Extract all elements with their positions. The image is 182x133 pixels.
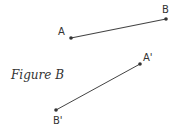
label-a: A [58,26,65,37]
label-b-prime: B' [53,115,63,126]
point-b [164,17,168,21]
segment-ab [71,19,166,38]
label-a-prime: A' [143,52,153,63]
point-a-prime [138,62,142,66]
diagram-canvas: A B A' B' Figure B [0,0,182,133]
point-b-prime [54,108,58,112]
label-b: B [162,4,169,15]
figure-caption: Figure B [10,68,64,82]
point-a [69,36,73,40]
segment-a-prime-b-prime [56,64,140,110]
